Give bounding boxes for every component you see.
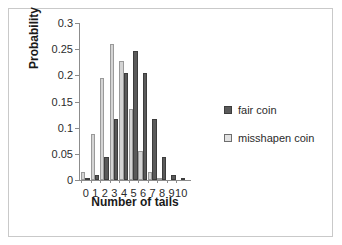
x-tick-mark (167, 180, 168, 183)
x-tick-mark (81, 180, 82, 183)
x-tick-mark (129, 180, 130, 183)
bar-fair-9 (171, 175, 175, 180)
bar-fair-3 (114, 119, 118, 180)
y-tick-mark (75, 154, 79, 155)
y-tick-mark (75, 75, 79, 76)
y-tick-mark (75, 102, 79, 103)
plot-area: 00.050.10.150.20.250.3 012345678910 (79, 23, 184, 180)
y-tick-label: 0.3 (58, 17, 73, 29)
legend-swatch-icon (224, 134, 232, 142)
y-tick-mark (75, 128, 79, 129)
bar-fair-2 (104, 157, 108, 180)
y-tick-mark (75, 23, 79, 24)
x-tick-mark (100, 180, 101, 183)
legend-item-label: misshapen coin (238, 132, 314, 144)
y-axis-title: Probability (27, 7, 41, 69)
y-tick-label: 0.25 (52, 43, 73, 55)
bar-fair-5 (133, 51, 137, 180)
chart-figure-frame: Probability 00.050.10.150.20.250.3 01234… (8, 8, 333, 237)
bar-fair-8 (162, 157, 166, 180)
bar-fair-1 (95, 175, 99, 180)
bar-fair-4 (124, 73, 128, 180)
y-tick-label: 0.1 (58, 122, 73, 134)
y-tick-label: 0.05 (52, 148, 73, 160)
bar-fair-6 (143, 73, 147, 180)
y-tick-label: 0.2 (58, 69, 73, 81)
y-tick-label: 0.15 (52, 96, 73, 108)
y-axis-line (79, 23, 80, 180)
legend-item-misshapen[interactable]: misshapen coin (224, 132, 314, 144)
bar-misshapen-1 (91, 134, 95, 180)
x-tick-mark (138, 180, 139, 183)
legend-item-fair[interactable]: fair coin (224, 104, 314, 116)
bar-fair-10 (181, 178, 185, 180)
bar-fair-7 (152, 119, 156, 180)
x-tick-mark (91, 180, 92, 183)
y-tick-mark (75, 49, 79, 50)
x-tick-mark (110, 180, 111, 183)
x-tick-mark (119, 180, 120, 183)
x-tick-mark (176, 180, 177, 183)
y-tick-label: 0 (67, 174, 73, 186)
x-axis-title: Number of tails (79, 195, 191, 209)
y-tick-mark (75, 180, 79, 181)
legend-item-label: fair coin (238, 104, 277, 116)
x-tick-mark (157, 180, 158, 183)
x-axis-line (79, 180, 191, 181)
chart-legend: fair coinmisshapen coin (224, 104, 314, 160)
x-tick-mark (148, 180, 149, 183)
legend-swatch-icon (224, 106, 232, 114)
bar-fair-0 (85, 178, 89, 180)
